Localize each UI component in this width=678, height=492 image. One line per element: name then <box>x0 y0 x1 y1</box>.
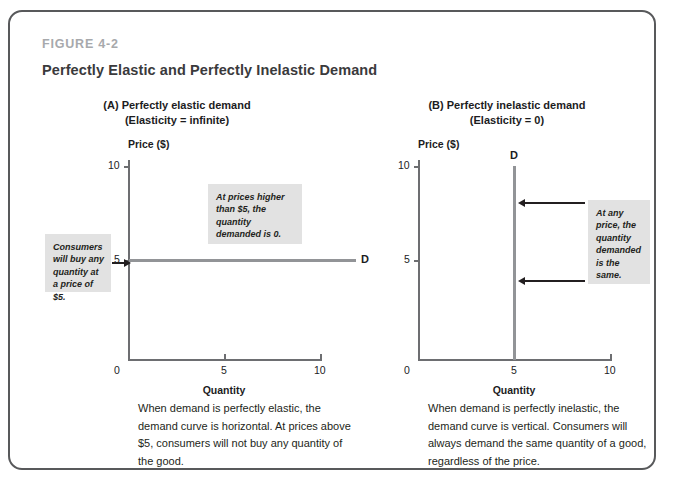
panel-a-y-tick-10 <box>124 166 129 168</box>
panel-b-y-tick-10 <box>414 166 419 168</box>
panel-a-caption: When demand is perfectly elastic, the de… <box>138 400 353 470</box>
panel-b-demand-curve-label: D <box>510 149 518 161</box>
panel-b-x-axis-title: Quantity <box>452 384 576 396</box>
panel-b-annotation-any-price: At any price, the quantity demanded is t… <box>588 200 650 284</box>
panel-b-y-tick-label-0: 0 <box>404 364 410 376</box>
panel-b-y-tick-label-5: 5 <box>404 253 410 265</box>
panel-b-caption: When demand is perfectly inelastic, the … <box>428 400 650 470</box>
panel-b-y-tick-5 <box>414 260 419 262</box>
panel-a-title: (A) Perfectly elastic demand (Elasticity… <box>32 98 322 127</box>
panel-b-x-tick-label-5: 5 <box>511 364 517 376</box>
panel-a-y-axis-title: Price ($) <box>128 138 169 150</box>
figure-number-label: FIGURE 4-2 <box>42 37 119 51</box>
panel-a-x-tick-5 <box>224 354 226 359</box>
panel-b-demand-curve <box>513 166 516 360</box>
panel-a-annotation-consumers-buy: Consumers will buy any quantity at a pri… <box>45 234 111 292</box>
panel-a-perfectly-elastic: (A) Perfectly elastic demand (Elasticity… <box>32 98 322 468</box>
panel-b-x-tick-10 <box>610 354 612 359</box>
panel-a-x-tick-label-5: 5 <box>221 364 227 376</box>
panel-b-x-tick-label-10: 10 <box>604 364 616 376</box>
figure-title: Perfectly Elastic and Perfectly Inelasti… <box>42 62 377 78</box>
panel-a-x-tick-10 <box>320 354 322 359</box>
panel-b-callout-arrow-bottom <box>525 280 585 282</box>
panel-a-y-tick-label-10: 10 <box>108 159 120 171</box>
panel-a-y-tick-label-0: 0 <box>114 364 120 376</box>
panel-a-x-axis-title: Quantity <box>162 384 286 396</box>
panel-a-callout-arrow <box>112 262 124 264</box>
panel-a-x-axis <box>128 359 322 361</box>
figure-frame: FIGURE 4-2 Perfectly Elastic and Perfect… <box>8 10 656 470</box>
panel-b-callout-arrow-top <box>525 202 585 204</box>
panel-b-title: (B) Perfectly inelastic demand (Elastici… <box>362 98 652 127</box>
panel-b-y-axis-title: Price ($) <box>418 138 459 150</box>
panel-b-y-tick-label-10: 10 <box>398 159 410 171</box>
panel-a-title-main: (A) Perfectly elastic demand <box>103 99 250 111</box>
panel-a-annotation-prices-above: At prices higher than $5, the quantity d… <box>208 184 302 244</box>
panel-a-demand-curve <box>129 259 356 262</box>
panel-b-perfectly-inelastic: (B) Perfectly inelastic demand (Elastici… <box>362 98 652 468</box>
panel-a-subtitle: (Elasticity = infinite) <box>32 113 322 128</box>
panel-b-subtitle: (Elasticity = 0) <box>362 113 652 128</box>
panel-a-x-tick-label-10: 10 <box>314 364 326 376</box>
panel-b-title-main: (B) Perfectly inelastic demand <box>428 99 585 111</box>
